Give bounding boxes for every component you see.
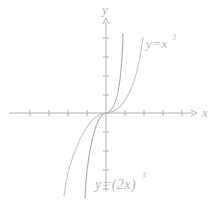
y-axis [103, 18, 109, 191]
curve-label-2x-cubed-exponent: 3 [141, 171, 146, 180]
x-axis-label: x [201, 105, 208, 120]
curve-label-x-cubed-exponent: 3 [171, 33, 176, 42]
y-axis-label: y [100, 2, 108, 17]
curve-label-x-cubed-text: y=x [144, 36, 168, 51]
curve-label-2x-cubed: y=(2x) 3 [93, 171, 146, 193]
curve-label-x-cubed: y=x 3 [144, 33, 176, 51]
cubic-curves-plot: y x y=x 3 y=(2x) 3 [0, 0, 215, 202]
figure-container: y x y=x 3 y=(2x) 3 [0, 0, 215, 202]
curve-y-equals-2x-cubed [85, 33, 123, 199]
curve-y-equals-x-cubed [64, 37, 143, 196]
curve-label-2x-cubed-text: y=(2x) [93, 177, 136, 193]
